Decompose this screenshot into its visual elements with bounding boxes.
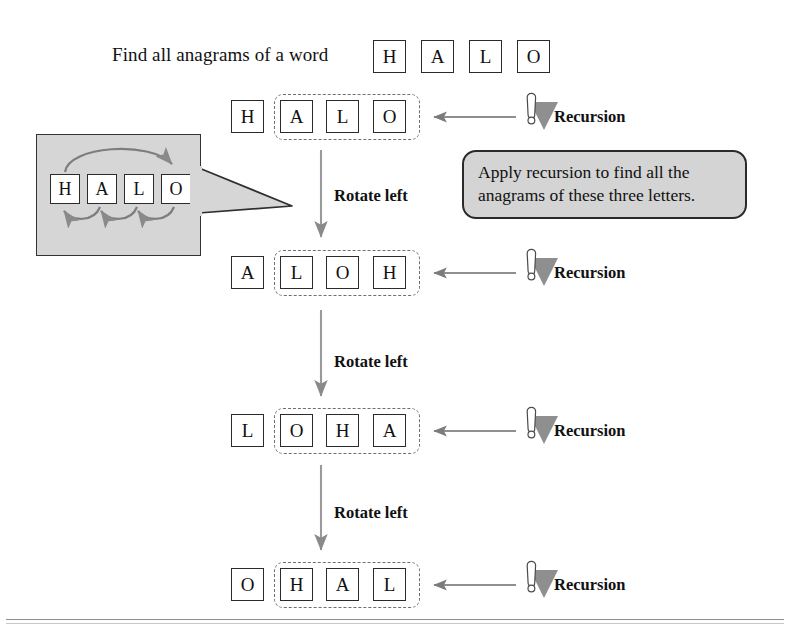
row4-fixed-letter-box: O [231, 568, 264, 601]
top-letter-box: A [421, 40, 454, 73]
row2-group-letter-box: O [326, 256, 359, 289]
page-bottom-rule [6, 619, 784, 620]
row3-recursion-label: Recursion [554, 421, 626, 441]
row4-group-letter-box: H [280, 568, 313, 601]
row2-fixed-letter-box: A [231, 256, 264, 289]
recursion-explanation-bubble: Apply recursion to find all the anagrams… [462, 150, 747, 219]
row3-group-letter-box: O [280, 414, 313, 447]
rotate-left-label-2: Rotate left [334, 352, 408, 372]
row2-group-letter-box: H [373, 256, 406, 289]
page-title: Find all anagrams of a word [112, 44, 328, 66]
diagram-canvas: Find all anagrams of a word H A L O H A … [0, 0, 790, 643]
rotate-left-label-1: Rotate left [334, 186, 408, 206]
inset-letter-box: O [161, 174, 191, 204]
row1-group-letter-box: A [280, 100, 313, 133]
bubble-line-2: anagrams of these three letters. [478, 184, 731, 207]
row4-group-letter-box: L [373, 568, 406, 601]
rotate-left-label-3: Rotate left [334, 503, 408, 523]
row2-group-letter-box: L [280, 256, 313, 289]
row3-fixed-letter-box: L [231, 414, 264, 447]
row3-group-letter-box: A [373, 414, 406, 447]
inset-letter-box: A [87, 174, 117, 204]
top-letter-box: H [373, 40, 406, 73]
top-letter-box: O [517, 40, 550, 73]
callout-pointer [190, 166, 292, 216]
inset-letter-box: L [124, 174, 154, 204]
row1-group-letter-box: L [326, 100, 359, 133]
top-letter-box: L [469, 40, 502, 73]
row4-group-letter-box: A [326, 568, 359, 601]
row1-fixed-letter-box: H [231, 100, 264, 133]
inset-letter-box: H [50, 174, 80, 204]
bubble-line-1: Apply recursion to find all the [478, 161, 731, 184]
row2-recursion-label: Recursion [554, 263, 626, 283]
row1-recursion-label: Recursion [554, 107, 626, 127]
page-bottom-rule-shadow [6, 623, 784, 624]
row3-group-letter-box: H [326, 414, 359, 447]
row4-recursion-label: Recursion [554, 575, 626, 595]
row1-group-letter-box: O [373, 100, 406, 133]
